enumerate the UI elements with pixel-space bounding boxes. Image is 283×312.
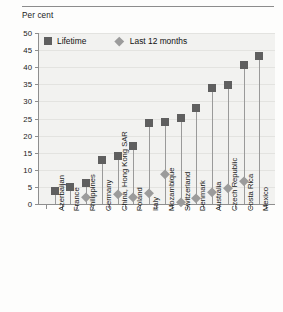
y-axis-tick-label: 30 xyxy=(12,97,32,106)
y-axis-tick-label: 10 xyxy=(12,165,32,174)
legend-item-last-12-months: Last 12 months xyxy=(116,36,187,46)
x-axis-category-label: Mozambique xyxy=(167,168,176,211)
x-axis-category-label: Switzerland xyxy=(183,172,192,211)
y-axis-tick-label: 25 xyxy=(12,114,32,123)
y-axis-tick-label: 15 xyxy=(12,148,32,157)
data-point-lifetime xyxy=(177,114,185,122)
x-axis-category-label: France xyxy=(72,187,81,211)
x-axis-category-label: Azerbaijan xyxy=(57,175,66,211)
x-axis-category-label: Czech Republic xyxy=(230,158,239,211)
stem-line xyxy=(181,118,182,204)
x-axis-category-label: Philippines xyxy=(88,174,97,211)
chart-figure: Per cent 05101520253035404550 Azerbaijan… xyxy=(0,0,283,312)
data-point-lifetime xyxy=(192,104,200,112)
data-point-last-12-months xyxy=(145,188,154,197)
data-point-lifetime xyxy=(98,156,106,164)
y-axis-tick-label: 35 xyxy=(12,80,32,89)
data-point-lifetime xyxy=(161,118,169,126)
data-point-lifetime xyxy=(129,142,137,150)
chart-legend: Lifetime Last 12 months xyxy=(44,36,187,46)
x-axis-category-label: Costa Rica xyxy=(246,174,255,211)
y-axis-tick-label: 0 xyxy=(12,200,32,209)
gridline xyxy=(39,153,275,154)
data-point-lifetime xyxy=(224,81,232,89)
y-axis-tick-label: 5 xyxy=(12,182,32,191)
x-axis-tick-mark xyxy=(46,205,47,209)
stem-line xyxy=(165,122,166,204)
data-point-lifetime xyxy=(145,119,153,127)
x-axis-category-label: Italy xyxy=(151,197,160,211)
gridline xyxy=(39,170,275,171)
y-axis-tick-label: 45 xyxy=(12,46,32,55)
data-point-lifetime xyxy=(255,52,263,60)
gridline xyxy=(39,136,275,137)
gridline xyxy=(39,33,275,34)
x-axis-category-label: Poland xyxy=(135,187,144,211)
gridline xyxy=(39,119,275,120)
plot-area xyxy=(38,33,275,205)
legend-item-lifetime: Lifetime xyxy=(44,36,86,46)
y-axis-tick-label: 20 xyxy=(12,131,32,140)
gridline xyxy=(39,50,275,51)
stem-line xyxy=(259,56,260,204)
x-axis-category-label: Mexico xyxy=(261,187,270,211)
data-point-lifetime xyxy=(240,61,248,69)
x-axis-category-label: Germany xyxy=(104,180,113,211)
y-axis-tick-label: 50 xyxy=(12,29,32,38)
gridline xyxy=(39,101,275,102)
legend-label-lifetime: Lifetime xyxy=(57,36,86,46)
header-divider xyxy=(22,6,274,7)
data-point-lifetime xyxy=(208,84,216,92)
legend-label-last-12-months: Last 12 months xyxy=(130,36,187,46)
x-axis-category-label: Denmark xyxy=(198,180,207,211)
x-axis-category-label: Australia xyxy=(214,181,223,211)
diamond-marker-icon xyxy=(115,36,124,45)
x-axis-category-label: China, Hong Kong SAR xyxy=(120,131,129,211)
square-marker-icon xyxy=(44,37,52,45)
y-axis-title: Per cent xyxy=(22,11,53,20)
y-axis-tick-label: 40 xyxy=(12,63,32,72)
stem-line xyxy=(102,160,103,204)
gridline xyxy=(39,84,275,85)
